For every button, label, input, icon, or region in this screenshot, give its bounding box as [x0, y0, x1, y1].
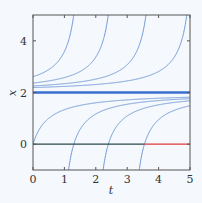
solution-curve-upper-2 — [33, 0, 118, 83]
solution-curve-lower-1 — [58, 99, 190, 203]
y-tick-label: 0 — [20, 138, 27, 151]
x-tick-label: 2 — [92, 173, 99, 186]
x-axis-ticks: 012345 — [30, 15, 194, 186]
x-tick-label: 4 — [155, 173, 162, 186]
phase-plot: 012345 024 t x — [0, 0, 202, 203]
solution-curve-upper-3 — [33, 0, 156, 86]
x-tick-label: 0 — [30, 173, 37, 186]
solution-curves — [33, 0, 190, 203]
x-axis-label: t — [109, 184, 114, 197]
y-axis-label: x — [6, 89, 19, 96]
x-tick-label: 3 — [124, 173, 131, 186]
x-tick-label: 5 — [187, 173, 194, 186]
x-tick-label: 1 — [61, 173, 68, 186]
solution-curve-upper-1 — [33, 0, 84, 77]
y-tick-label: 4 — [20, 35, 27, 48]
solution-curve-lower-3 — [129, 106, 190, 203]
solution-curve-lower-2 — [93, 101, 190, 203]
solution-curve-lower-0 — [33, 97, 190, 144]
y-tick-label: 2 — [20, 87, 27, 100]
